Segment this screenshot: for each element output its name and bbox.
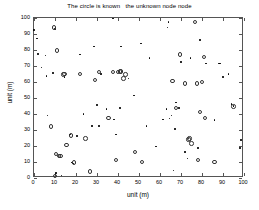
known-node-marker xyxy=(64,143,68,147)
known-node-marker xyxy=(178,52,182,56)
x-tick-label: 20 xyxy=(65,179,85,185)
known-node-marker xyxy=(53,174,57,178)
x-tick-mark-top xyxy=(181,18,182,21)
x-tick-label: 100 xyxy=(233,179,253,185)
y-tick-mark-right xyxy=(239,98,242,99)
known-node-marker xyxy=(52,25,56,29)
unknown-node-marker xyxy=(52,72,54,74)
y-tick-mark-right xyxy=(239,130,242,131)
x-tick-mark xyxy=(34,173,35,176)
known-node-marker xyxy=(62,72,66,76)
unknown-node-marker xyxy=(197,147,199,149)
unknown-node-marker xyxy=(219,63,221,65)
y-tick-mark-right xyxy=(239,162,242,163)
x-tick-mark xyxy=(181,173,182,176)
x-tick-mark xyxy=(202,173,203,176)
y-tick-mark xyxy=(34,98,37,99)
known-node-marker xyxy=(58,154,62,158)
known-node-marker xyxy=(106,116,110,120)
x-tick-mark-top xyxy=(160,18,161,21)
known-node-marker xyxy=(193,20,197,24)
y-tick-mark xyxy=(34,146,37,147)
y-tick-mark-right xyxy=(239,34,242,35)
known-node-marker xyxy=(121,76,125,80)
y-tick-label: 40 xyxy=(14,110,30,116)
x-tick-label: 60 xyxy=(149,179,169,185)
x-tick-mark-top xyxy=(55,18,56,21)
unknown-node-marker xyxy=(113,119,115,121)
x-tick-mark-top xyxy=(244,18,245,21)
x-tick-mark xyxy=(118,173,119,176)
x-tick-label: 80 xyxy=(191,179,211,185)
unknown-node-marker xyxy=(222,76,224,78)
unknown-node-marker xyxy=(100,73,102,75)
known-node-marker xyxy=(195,81,199,85)
unknown-node-marker xyxy=(91,125,93,127)
y-tick-label: 0 xyxy=(14,174,30,180)
x-tick-mark-top xyxy=(139,18,140,21)
x-tick-mark xyxy=(223,173,224,176)
plot-axes-box xyxy=(33,17,243,177)
x-tick-mark-top xyxy=(97,18,98,21)
known-node-marker xyxy=(123,72,127,76)
unknown-node-marker xyxy=(146,125,148,127)
unknown-node-marker xyxy=(162,119,164,121)
y-tick-mark xyxy=(34,114,37,115)
unknown-node-marker xyxy=(180,61,182,63)
y-tick-mark-right xyxy=(239,82,242,83)
y-tick-mark-right xyxy=(239,18,242,19)
known-node-marker xyxy=(189,141,193,145)
x-tick-mark-top xyxy=(202,18,203,21)
y-tick-label: 60 xyxy=(14,78,30,84)
x-tick-label: 50 xyxy=(128,179,148,185)
unknown-node-marker xyxy=(166,108,168,110)
y-tick-mark xyxy=(34,18,37,19)
known-node-marker xyxy=(83,136,87,140)
x-tick-label: 90 xyxy=(212,179,232,185)
known-node-marker xyxy=(72,160,76,164)
unknown-node-marker xyxy=(98,125,100,127)
known-node-marker xyxy=(212,160,216,164)
x-tick-mark xyxy=(244,173,245,176)
y-tick-label: 80 xyxy=(14,46,30,52)
known-node-marker xyxy=(69,133,73,137)
y-tick-label: 50 xyxy=(14,94,30,100)
y-tick-mark-right xyxy=(239,66,242,67)
unknown-node-marker xyxy=(199,39,201,41)
y-tick-mark-right xyxy=(239,114,242,115)
unknown-node-marker xyxy=(96,104,98,106)
y-tick-mark xyxy=(34,34,37,35)
x-tick-mark-top xyxy=(223,18,224,21)
unknown-node-marker xyxy=(33,29,35,31)
x-tick-label: 40 xyxy=(107,179,127,185)
known-node-marker xyxy=(88,169,92,173)
figure-canvas: The circle is known the unknown node nod… xyxy=(0,0,259,210)
y-tick-label: 10 xyxy=(14,158,30,164)
x-axis-label: unit (m) xyxy=(33,191,243,198)
x-tick-mark xyxy=(76,173,77,176)
unknown-node-marker xyxy=(133,95,135,97)
unknown-node-marker xyxy=(37,53,39,55)
unknown-node-marker xyxy=(228,73,230,75)
x-tick-mark-top xyxy=(118,18,119,21)
unknown-node-marker xyxy=(174,128,176,130)
y-tick-label: 90 xyxy=(14,30,30,36)
x-tick-label: 30 xyxy=(86,179,106,185)
known-node-marker xyxy=(49,124,53,128)
known-node-marker xyxy=(231,104,235,108)
plot-title: The circle is known the unknown node nod… xyxy=(0,3,259,9)
x-tick-mark xyxy=(139,173,140,176)
x-tick-mark-top xyxy=(76,18,77,21)
unknown-node-marker xyxy=(184,151,186,153)
y-tick-mark xyxy=(34,66,37,67)
x-tick-mark xyxy=(160,173,161,176)
x-tick-mark xyxy=(97,173,98,176)
y-tick-label: 20 xyxy=(14,142,30,148)
x-tick-label: 70 xyxy=(170,179,190,185)
unknown-node-marker xyxy=(178,107,180,109)
unknown-node-marker xyxy=(240,139,242,141)
y-axis-label: unit (m) xyxy=(6,68,13,118)
x-tick-label: 10 xyxy=(44,179,64,185)
unknown-node-marker xyxy=(168,21,170,23)
unknown-node-marker xyxy=(140,43,142,45)
